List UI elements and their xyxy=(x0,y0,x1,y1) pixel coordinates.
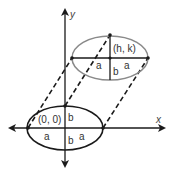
original-a-right-label: a xyxy=(79,131,85,142)
x-axis-label: x xyxy=(155,114,162,125)
translated-center-point xyxy=(108,56,111,59)
ellipse-translation-diagram: y x (h, k) a a b (0, 0) b a b a xyxy=(0,0,174,176)
translated-b-label: b xyxy=(113,66,119,77)
original-left-vertex xyxy=(26,126,30,130)
original-b-bottom-label: b xyxy=(68,135,74,146)
original-center-label: (0, 0) xyxy=(38,114,61,125)
translated-a-right-label: a xyxy=(124,60,130,71)
y-axis-label: y xyxy=(69,9,76,20)
connector-top xyxy=(65,35,110,106)
original-b-top-label: b xyxy=(68,112,74,123)
original-top-vertex xyxy=(63,104,67,108)
translated-top-vertex xyxy=(108,33,112,37)
original-right-vertex xyxy=(101,126,105,130)
translated-ellipse xyxy=(70,33,150,80)
translated-right-vertex xyxy=(146,56,150,60)
original-a-left-label: a xyxy=(44,131,50,142)
translated-a-left-label: a xyxy=(96,60,102,71)
translated-center-label: (h, k) xyxy=(113,43,136,54)
diagram-canvas: y x (h, k) a a b (0, 0) b a b a xyxy=(0,0,174,176)
translated-left-vertex xyxy=(70,56,74,60)
axes xyxy=(10,10,164,166)
